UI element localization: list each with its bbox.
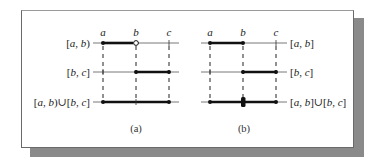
closed-endpoint-icon bbox=[167, 70, 171, 74]
row-label-b-c: [b, c] bbox=[290, 66, 313, 78]
point-label-b: b bbox=[240, 26, 246, 38]
panel-b: a b c [a, b] [b, c] bbox=[201, 26, 346, 135]
point-label-c: c bbox=[167, 26, 172, 38]
row-a-b-halfopen bbox=[93, 40, 179, 46]
closed-endpoint-icon bbox=[241, 70, 245, 74]
panel-a: a b c [a, b) [b, c] bbox=[34, 26, 179, 135]
closed-endpoint-icon bbox=[208, 41, 212, 45]
closed-endpoint-icon bbox=[274, 70, 278, 74]
row-label-a-b-halfopen: [a, b) bbox=[66, 37, 90, 50]
caption-a: (a) bbox=[130, 123, 142, 135]
point-label-b: b bbox=[133, 26, 139, 38]
row-a-b-closed bbox=[201, 40, 287, 46]
closed-endpoint-icon bbox=[167, 100, 171, 104]
point-label-a: a bbox=[100, 26, 106, 38]
row-union-a bbox=[93, 99, 179, 105]
closed-endpoint-icon bbox=[274, 100, 278, 104]
row-label-a-b-closed: [a, b] bbox=[290, 37, 314, 49]
row-label-union-a: [a, b)∪[b, c] bbox=[34, 96, 90, 109]
row-b-c bbox=[201, 69, 287, 75]
closed-endpoint-icon bbox=[208, 100, 212, 104]
closed-endpoint-icon bbox=[134, 70, 138, 74]
row-union-b bbox=[201, 97, 287, 107]
point-label-c: c bbox=[274, 26, 279, 38]
row-label-b-c: [b, c] bbox=[67, 66, 90, 78]
row-label-union-b: [a, b]∪[b, c] bbox=[290, 96, 346, 108]
point-label-a: a bbox=[207, 26, 213, 38]
open-endpoint-icon bbox=[134, 41, 139, 46]
closed-endpoint-icon bbox=[101, 41, 105, 45]
overlap-point-icon bbox=[241, 97, 246, 107]
interval-union-diagram: a b c [a, b) [b, c] bbox=[0, 0, 384, 168]
closed-endpoint-icon bbox=[101, 100, 105, 104]
closed-endpoint-icon bbox=[241, 41, 245, 45]
row-b-c bbox=[93, 69, 179, 75]
caption-b: (b) bbox=[238, 123, 251, 135]
